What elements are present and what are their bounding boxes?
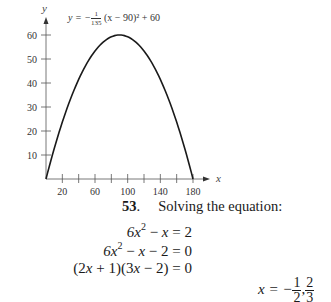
y-axis-label: y	[41, 2, 47, 14]
svg-text:30: 30	[27, 102, 37, 113]
y-ticks: 102030405060	[27, 30, 51, 161]
equation-solution: x = −12,23	[258, 276, 314, 302]
parabola-chart: y x 102030405060 2060100140180	[0, 0, 331, 200]
svg-text:20: 20	[57, 186, 67, 197]
svg-text:10: 10	[27, 150, 37, 161]
svg-text:60: 60	[27, 30, 37, 41]
equation-step-2: 6x2 − x − 2 = 0	[103, 241, 192, 260]
svg-text:50: 50	[27, 54, 37, 65]
formula-lhs: y = −	[68, 12, 91, 23]
formula-frac-den: 135	[91, 19, 102, 27]
svg-text:140: 140	[153, 186, 168, 197]
x-axis-label: x	[215, 172, 221, 184]
svg-text:60: 60	[90, 186, 100, 197]
formula-fraction: 1135	[91, 10, 102, 27]
solution-prefix: x = −	[258, 281, 292, 297]
curve-equation-label: y = −1135 (x − 90)² + 60	[68, 10, 160, 27]
equation-step-3: (2x + 1)(3x − 2) = 0	[73, 260, 192, 277]
svg-text:20: 20	[27, 126, 37, 137]
svg-text:100: 100	[120, 186, 135, 197]
problem-number: 53.	[122, 198, 140, 214]
problem-heading: 53.Solving the equation:	[122, 198, 282, 215]
formula-rest: (x − 90)² + 60	[104, 12, 160, 23]
solution-fraction-2: 23	[305, 276, 314, 302]
equation-step-1: 6x2 − x = 2	[127, 222, 192, 241]
x-ticks: 2060100140180	[57, 174, 200, 197]
parabola-curve	[46, 35, 193, 179]
svg-text:40: 40	[27, 78, 37, 89]
problem-title: Solving the equation:	[158, 198, 282, 214]
svg-text:180: 180	[186, 186, 201, 197]
formula-frac-num: 1	[91, 10, 102, 19]
x-axis-arrow-icon	[203, 177, 210, 182]
y-axis-arrow-icon	[44, 17, 49, 24]
